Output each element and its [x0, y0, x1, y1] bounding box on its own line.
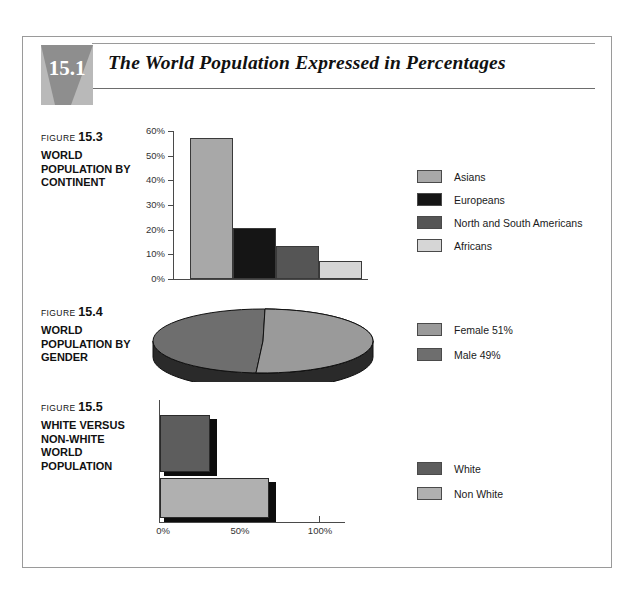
legend-label-male: Male 49%: [454, 349, 501, 361]
legend-label-nonwhite: Non White: [454, 488, 503, 500]
figure-title-line-1: WHITE VERSUS: [41, 419, 153, 433]
figure-label-15-5: FIGURE 15.5: [41, 400, 153, 414]
legend-label-europeans: Europeans: [454, 194, 505, 206]
header-rule-top: [92, 43, 595, 44]
legend-item-white: White: [417, 462, 503, 475]
y-tick-label-60: 60%: [131, 125, 165, 136]
legend-white-versus-nonwhite: White Non White: [417, 462, 503, 510]
y-tick-label-0: 0%: [131, 273, 165, 284]
legend-label-north-and-south-americans: North and South Americans: [454, 217, 582, 229]
x-axis-line: [173, 279, 368, 280]
legend-swatch-nonwhite: [417, 487, 442, 500]
bar-asians: [190, 138, 233, 279]
chart-population-by-continent: 60% 50% 40% 30% 20% 10% 0%: [143, 128, 378, 288]
legend-swatch-asians: [417, 170, 442, 183]
y-tick-0: [168, 279, 173, 280]
y-tick-40: [168, 180, 173, 181]
legend-label-female: Female 51%: [454, 324, 513, 336]
figure-title-line-3: WORLD: [41, 446, 153, 460]
x-axis-line: [159, 522, 345, 523]
figure-word-15-4: FIGURE: [41, 308, 76, 318]
legend-label-asians: Asians: [454, 171, 486, 183]
chapter-number-badge: 15.1: [41, 45, 93, 105]
y-tick-label-10: 10%: [131, 248, 165, 259]
y-tick-30: [168, 205, 173, 206]
chart-population-by-gender: [152, 300, 374, 382]
bar-africans: [319, 261, 362, 280]
figure-label-15-4: FIGURE 15.4: [41, 305, 153, 319]
header-rule: [76, 88, 595, 89]
x-tick-label-0: 0%: [151, 525, 175, 536]
legend-item-north-and-south-americans: North and South Americans: [417, 216, 582, 229]
legend-item-africans: Africans: [417, 239, 582, 252]
x-tick-label-100: 100%: [301, 525, 339, 536]
y-tick-60: [168, 131, 173, 132]
y-tick-label-50: 50%: [131, 150, 165, 161]
y-tick-10: [168, 254, 173, 255]
bar-europeans: [233, 228, 276, 279]
chart-white-versus-nonwhite: 0% 50% 100%: [159, 400, 374, 550]
figure-title-line-2: POPULATION BY: [41, 338, 153, 352]
figure-word-15-5: FIGURE: [41, 403, 76, 413]
bar-nonwhite: [160, 478, 269, 518]
figure-title-line-1: WORLD: [41, 324, 153, 338]
legend-swatch-white: [417, 462, 442, 475]
figure-word-15-3: FIGURE: [41, 133, 76, 143]
legend-swatch-female: [417, 323, 442, 336]
figure-title-line-3: GENDER: [41, 351, 153, 365]
figure-title-line-4: POPULATION: [41, 460, 153, 474]
legend-item-europeans: Europeans: [417, 193, 582, 206]
y-tick-label-30: 30%: [131, 199, 165, 210]
figure-number-15-3: 15.3: [78, 130, 102, 144]
figure-caption-15-5: FIGURE 15.5 WHITE VERSUS NON-WHITE WORLD…: [41, 400, 153, 473]
legend-population-by-gender: Female 51% Male 49%: [417, 323, 513, 371]
x-tick-100: [319, 516, 320, 522]
figure-title-15-4: WORLD POPULATION BY GENDER: [41, 324, 153, 365]
legend-label-africans: Africans: [454, 240, 492, 252]
bar-white: [160, 415, 210, 472]
plot-area: [174, 131, 368, 279]
page-title: The World Population Expressed in Percen…: [108, 52, 506, 74]
figure-number-15-5: 15.5: [78, 400, 102, 414]
y-tick-label-20: 20%: [131, 224, 165, 235]
legend-label-white: White: [454, 463, 481, 475]
y-tick-20: [168, 230, 173, 231]
chapter-number: 15.1: [41, 56, 93, 81]
y-tick-label-40: 40%: [131, 174, 165, 185]
legend-swatch-north-and-south-americans: [417, 216, 442, 229]
legend-item-asians: Asians: [417, 170, 582, 183]
pie-3d-graphic: [152, 300, 374, 382]
figure-caption-15-4: FIGURE 15.4 WORLD POPULATION BY GENDER: [41, 305, 153, 365]
bar-north-and-south-americans: [276, 246, 319, 279]
legend-item-female: Female 51%: [417, 323, 513, 336]
figure-title-line-2: NON-WHITE: [41, 433, 153, 447]
legend-item-male: Male 49%: [417, 348, 513, 361]
legend-swatch-europeans: [417, 193, 442, 206]
y-tick-50: [168, 156, 173, 157]
legend-swatch-africans: [417, 239, 442, 252]
legend-item-nonwhite: Non White: [417, 487, 503, 500]
legend-swatch-male: [417, 348, 442, 361]
figure-title-15-5: WHITE VERSUS NON-WHITE WORLD POPULATION: [41, 419, 153, 473]
legend-population-by-continent: Asians Europeans North and South America…: [417, 170, 582, 262]
x-tick-label-50: 50%: [225, 525, 255, 536]
figure-number-15-4: 15.4: [78, 305, 102, 319]
